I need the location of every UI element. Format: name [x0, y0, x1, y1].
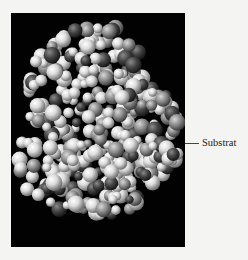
atom-sphere [68, 87, 80, 99]
atom-sphere [30, 98, 46, 114]
atom-sphere [77, 140, 86, 149]
atom-sphere [14, 162, 27, 175]
atom-sphere [88, 65, 99, 76]
atom-sphere [32, 188, 45, 201]
atom-sphere [30, 56, 42, 68]
protein-space-filling-model [11, 13, 185, 247]
atom-sphere [72, 118, 81, 127]
atom-sphere [44, 47, 61, 64]
atom-sphere [63, 108, 74, 119]
atom-sphere [148, 88, 157, 97]
atom-sphere [114, 69, 124, 79]
atom-sphere [86, 75, 98, 87]
atom-sphere [49, 93, 63, 107]
atom-sphere [32, 114, 45, 127]
atom-sphere [93, 180, 105, 192]
atom-sphere [103, 117, 115, 129]
atom-sphere [82, 110, 96, 124]
atom-sphere [156, 92, 171, 107]
atom-sphere [96, 40, 106, 50]
atom-sphere [125, 195, 133, 203]
atom-sphere [68, 196, 85, 213]
atom-sphere [169, 114, 185, 131]
substrate-label: Substrat [202, 135, 236, 151]
atom-sphere [108, 195, 117, 204]
atom-sphere [103, 107, 114, 118]
atom-sphere [119, 178, 131, 190]
atom-sphere [46, 174, 63, 191]
atom-sphere [87, 145, 103, 161]
atom-sphere [81, 24, 94, 37]
atom-sphere [43, 140, 58, 155]
atom-sphere [76, 102, 86, 112]
atom-sphere [137, 100, 147, 110]
atom-sphere [83, 167, 98, 182]
atom-sphere [96, 201, 112, 217]
atom-sphere [67, 155, 79, 167]
atom-sphere [80, 55, 91, 66]
atom-sphere [42, 163, 51, 172]
molecule-image-panel [11, 13, 185, 247]
atom-sphere [74, 172, 83, 181]
atom-sphere [108, 141, 124, 157]
atom-sphere [167, 148, 180, 161]
atom-sphere [83, 93, 93, 103]
substrate-leader-line [185, 143, 199, 144]
atom-sphere [46, 64, 62, 80]
atom-sphere [112, 107, 127, 122]
atom-sphere [98, 70, 114, 86]
atom-sphere [123, 138, 139, 154]
atom-sphere [115, 90, 130, 105]
atom-sphere [35, 75, 47, 87]
atom-sphere [93, 24, 103, 34]
atom-sphere [68, 23, 83, 38]
atom-sphere [45, 105, 62, 122]
atom-sphere [80, 39, 95, 54]
atom-sphere [46, 197, 55, 206]
atom-sphere [102, 24, 117, 39]
atom-sphere [27, 142, 43, 158]
atom-sphere [146, 100, 157, 111]
atom-sphere [111, 205, 121, 215]
atom-sphere [90, 52, 102, 64]
atom-sphere [148, 142, 157, 151]
atom-sphere [125, 57, 142, 74]
atom-sphere [139, 169, 151, 181]
atom-sphere [114, 157, 127, 170]
atom-sphere [122, 38, 136, 52]
atom-sphere [27, 159, 41, 173]
